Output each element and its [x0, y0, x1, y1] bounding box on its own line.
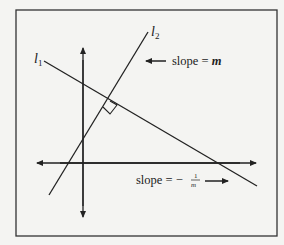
- l1-slope-den: m: [191, 181, 196, 189]
- l1-slope-text: slope = −: [136, 173, 183, 187]
- frame: [16, 10, 277, 236]
- l1-slope-num: 1: [194, 172, 198, 180]
- perpendicular-lines-diagram: l1 l2 slope = m slope = − 1 m: [0, 0, 284, 245]
- l2-slope-text: slope = m: [172, 54, 222, 68]
